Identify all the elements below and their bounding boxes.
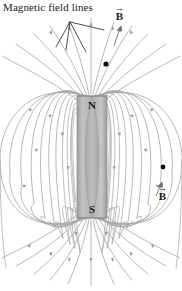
leader-lines: [56, 22, 104, 52]
field-line-group-bottom-flare: [2, 212, 180, 285]
south-pole-label: S: [85, 203, 99, 215]
magnetic-field-diagram: Magnetic field lines → B → B N S: [0, 0, 182, 291]
field-point-markers: [103, 61, 165, 169]
bar-magnet: [77, 96, 107, 218]
field-point-upper: [103, 61, 108, 66]
magnetic-field-lines-label: Magnetic field lines: [3, 2, 93, 13]
north-pole-label: N: [85, 99, 99, 111]
b-vector-label-bottom: → B: [158, 186, 167, 202]
field-point-lower: [161, 165, 166, 170]
b-letter-bottom: B: [158, 191, 167, 202]
b-vector-label-top: → B: [115, 6, 124, 22]
field-line-group-top-flare: [2, 18, 180, 103]
b-letter-top: B: [115, 11, 124, 22]
field-lines-canvas: [0, 0, 182, 291]
